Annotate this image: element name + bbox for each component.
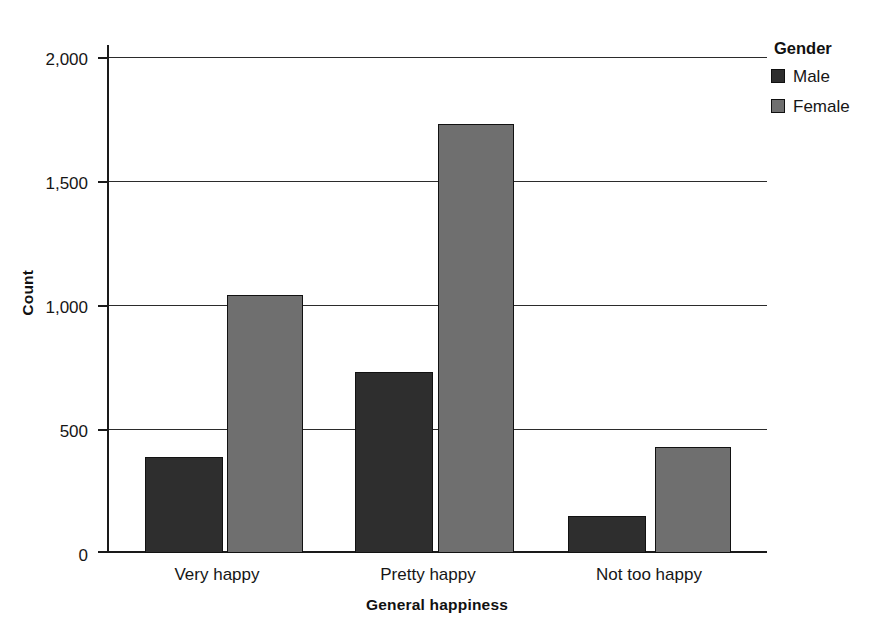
bar-pretty-happy-female [438, 124, 514, 553]
bar-very-happy-female [227, 295, 303, 553]
legend-item-female: Female [771, 98, 881, 115]
gridline-1000 [107, 305, 767, 306]
legend-label-male: Male [793, 68, 830, 85]
gridline-2000 [107, 57, 767, 58]
gridline-1500 [107, 181, 767, 182]
plot-area [107, 45, 767, 553]
y-tickmark-0 [98, 551, 107, 553]
y-tick-label-1000: 1,000 [45, 299, 88, 316]
chart-container: 2,000 1,500 1,000 500 0 Count Very hap [0, 0, 885, 635]
y-axis-line [107, 45, 109, 553]
legend-item-male: Male [771, 68, 881, 85]
y-tick-label-0: 0 [79, 547, 88, 564]
x-axis-title: General happiness [107, 597, 767, 613]
y-tickmark-1500 [98, 181, 107, 183]
x-category-label-pretty-happy: Pretty happy [348, 566, 508, 583]
y-tick-label-500: 500 [60, 423, 88, 440]
y-tickmark-1000 [98, 305, 107, 307]
legend: Gender Male Female [771, 40, 881, 128]
legend-title: Gender [774, 40, 881, 57]
x-category-label-very-happy: Very happy [137, 566, 297, 583]
bar-very-happy-male [145, 457, 223, 553]
bar-pretty-happy-male [355, 372, 433, 553]
legend-swatch-male-icon [771, 69, 785, 83]
y-tickmark-500 [98, 429, 107, 431]
x-category-label-not-too-happy: Not too happy [569, 566, 729, 583]
legend-swatch-female-icon [771, 99, 785, 113]
legend-label-female: Female [793, 98, 850, 115]
y-tick-label-1500: 1,500 [45, 175, 88, 192]
y-tick-label-2000: 2,000 [45, 51, 88, 68]
gridline-500 [107, 429, 767, 430]
bar-not-too-happy-male [568, 516, 646, 553]
bar-not-too-happy-female [655, 447, 731, 553]
y-tickmark-2000 [98, 57, 107, 59]
y-axis-title: Count [20, 243, 36, 343]
y-axis-tick-labels: 2,000 1,500 1,000 500 0 [0, 45, 88, 553]
